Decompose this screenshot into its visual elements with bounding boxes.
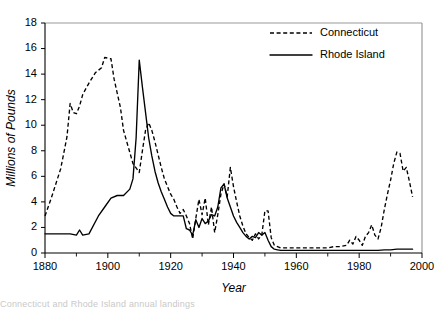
y-tick-label: 8 <box>31 144 37 156</box>
y-tick-label: 2 <box>31 220 37 232</box>
chart-background <box>0 0 438 309</box>
x-tick-label: 1980 <box>347 260 371 272</box>
x-tick-label: 2000 <box>410 260 434 272</box>
x-tick-label: 1900 <box>96 260 120 272</box>
x-axis-title: Year <box>221 281 247 295</box>
y-tick-label: 12 <box>25 93 37 105</box>
y-tick-label: 16 <box>25 41 37 53</box>
x-tick-label: 1920 <box>158 260 182 272</box>
y-axis-title: Millions of Pounds <box>4 89 18 186</box>
x-tick-label: 1880 <box>33 260 57 272</box>
figure-caption-partial: Connecticut and Rhode Island annual land… <box>0 299 438 309</box>
y-tick-label: 4 <box>31 195 37 207</box>
legend-label-rhode-island: Rhode Island <box>320 48 385 60</box>
y-tick-label: 14 <box>25 67 37 79</box>
x-tick-label: 1960 <box>284 260 308 272</box>
y-tick-label: 0 <box>31 246 37 258</box>
line-chart: 024681012141618 188019001920194019601980… <box>0 0 438 309</box>
x-tick-label: 1940 <box>221 260 245 272</box>
y-tick-label: 6 <box>31 169 37 181</box>
figure-container: 024681012141618 188019001920194019601980… <box>0 0 438 309</box>
y-tick-label: 18 <box>25 16 37 28</box>
y-tick-label: 10 <box>25 118 37 130</box>
legend-label-connecticut: Connecticut <box>320 26 378 38</box>
